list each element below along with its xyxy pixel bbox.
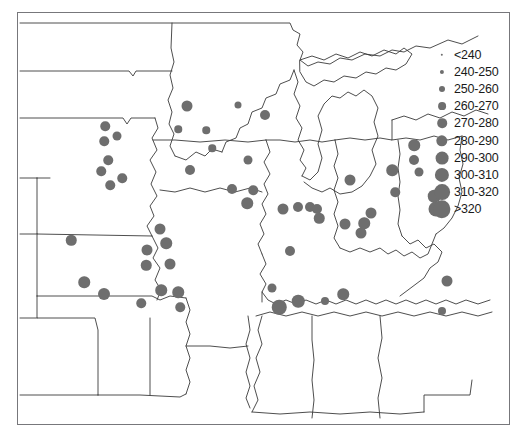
legend-item: 310-320 bbox=[428, 184, 520, 201]
data-point bbox=[272, 300, 287, 315]
data-point bbox=[96, 166, 106, 176]
data-point bbox=[390, 187, 400, 197]
data-point bbox=[155, 224, 166, 235]
data-point bbox=[366, 208, 377, 219]
data-point bbox=[442, 276, 453, 287]
data-point bbox=[117, 173, 127, 183]
legend-marker bbox=[435, 168, 449, 182]
data-point bbox=[285, 246, 295, 256]
data-point bbox=[278, 204, 289, 215]
legend-label: <240 bbox=[454, 48, 481, 62]
data-point bbox=[141, 260, 152, 271]
data-point bbox=[182, 101, 193, 112]
legend-item: 270-280 bbox=[428, 115, 520, 132]
legend-label: >320 bbox=[454, 202, 481, 216]
data-point bbox=[78, 276, 90, 288]
data-point bbox=[227, 184, 237, 194]
data-point bbox=[208, 144, 216, 152]
legend-label: 290-300 bbox=[454, 151, 498, 165]
data-point bbox=[340, 219, 351, 230]
legend-label: 250-260 bbox=[454, 82, 498, 96]
legend-item: 290-300 bbox=[428, 149, 520, 166]
legend-item: 250-260 bbox=[428, 80, 520, 97]
legend: <240240-250250-260260-270270-280280-2902… bbox=[428, 46, 520, 218]
data-point bbox=[136, 298, 146, 308]
legend-item: 300-310 bbox=[428, 166, 520, 183]
data-point bbox=[268, 284, 277, 293]
legend-item: >320 bbox=[428, 201, 520, 218]
legend-item: 240-250 bbox=[428, 63, 520, 80]
legend-marker bbox=[433, 201, 450, 218]
data-point bbox=[386, 164, 398, 176]
legend-marker bbox=[437, 119, 447, 129]
data-point bbox=[248, 185, 258, 195]
legend-marker bbox=[440, 70, 444, 74]
data-point bbox=[409, 155, 419, 165]
data-point bbox=[415, 168, 424, 177]
data-point bbox=[337, 288, 349, 300]
data-point bbox=[202, 126, 210, 134]
map-figure: <240240-250250-260260-270270-280280-2902… bbox=[0, 0, 527, 441]
data-point bbox=[356, 228, 367, 239]
legend-marker bbox=[439, 86, 445, 92]
data-point bbox=[66, 235, 77, 246]
legend-label: 240-250 bbox=[454, 65, 498, 79]
data-point bbox=[172, 286, 184, 298]
data-point bbox=[155, 284, 167, 296]
data-point bbox=[260, 110, 270, 120]
data-point bbox=[160, 237, 172, 249]
data-point bbox=[244, 156, 253, 165]
data-point bbox=[105, 180, 115, 190]
legend-item: <240 bbox=[428, 46, 520, 63]
data-point bbox=[345, 175, 356, 186]
data-point bbox=[98, 288, 110, 300]
data-point bbox=[165, 259, 176, 270]
data-point bbox=[408, 139, 420, 151]
data-point bbox=[438, 307, 446, 315]
data-point bbox=[292, 295, 305, 308]
legend-marker bbox=[441, 53, 443, 55]
data-point bbox=[99, 136, 109, 146]
data-point bbox=[103, 155, 113, 165]
data-point bbox=[113, 132, 122, 141]
legend-item: 260-270 bbox=[428, 98, 520, 115]
data-point bbox=[100, 121, 110, 131]
data-point bbox=[185, 165, 195, 175]
legend-label: 260-270 bbox=[454, 99, 498, 113]
data-point bbox=[174, 125, 182, 133]
data-point bbox=[235, 102, 242, 109]
legend-marker bbox=[436, 151, 449, 164]
legend-label: 310-320 bbox=[454, 185, 498, 199]
data-point bbox=[293, 202, 303, 212]
legend-label: 280-290 bbox=[454, 134, 498, 148]
data-point bbox=[241, 197, 253, 209]
legend-label: 270-280 bbox=[454, 116, 498, 130]
data-point bbox=[321, 297, 329, 305]
data-point bbox=[175, 302, 185, 312]
data-point bbox=[314, 213, 325, 224]
legend-marker bbox=[438, 102, 446, 110]
data-point bbox=[142, 245, 153, 256]
legend-label: 300-310 bbox=[454, 168, 498, 182]
legend-marker bbox=[436, 135, 447, 146]
legend-item: 280-290 bbox=[428, 132, 520, 149]
legend-marker bbox=[434, 184, 450, 200]
